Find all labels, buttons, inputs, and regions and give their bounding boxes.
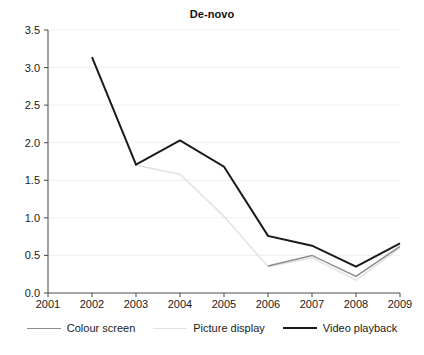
- x-tick-label: 2007: [290, 298, 334, 310]
- y-tick-label: 1.5: [6, 174, 40, 186]
- legend-item-video-playback[interactable]: Video playback: [283, 322, 397, 334]
- axis-lines: [48, 30, 400, 293]
- chart-container: De-novo 0.00.51.01.52.02.53.03.5 2001200…: [0, 0, 424, 355]
- data-series: [92, 57, 400, 280]
- x-tick-label: 2003: [114, 298, 158, 310]
- legend-item-label: Picture display: [193, 322, 265, 334]
- y-tick-label: 3.5: [6, 24, 40, 36]
- x-tick-label: 2001: [26, 298, 70, 310]
- legend-item-picture-display[interactable]: Picture display: [153, 322, 265, 334]
- series-line-colour-screen: [268, 246, 400, 276]
- x-tick-label: 2004: [158, 298, 202, 310]
- y-tick-label: 0.5: [6, 249, 40, 261]
- series-line-video-playback: [92, 57, 400, 267]
- legend-line-swatch: [27, 328, 61, 329]
- legend-line-swatch: [153, 328, 187, 329]
- chart-legend: Colour screenPicture displayVideo playba…: [0, 322, 424, 334]
- legend-item-colour-screen[interactable]: Colour screen: [27, 322, 135, 334]
- legend-item-label: Colour screen: [67, 322, 135, 334]
- gridlines: [48, 30, 400, 293]
- legend-line-swatch: [283, 327, 317, 329]
- y-tick-label: 3.0: [6, 62, 40, 74]
- x-tick-label: 2005: [202, 298, 246, 310]
- x-tick-label: 2009: [378, 298, 422, 310]
- series-line-picture-display: [136, 165, 400, 280]
- x-tick-label: 2006: [246, 298, 290, 310]
- y-tick-label: 2.5: [6, 99, 40, 111]
- y-tick-label: 2.0: [6, 137, 40, 149]
- x-tick-label: 2008: [334, 298, 378, 310]
- y-tick-label: 1.0: [6, 212, 40, 224]
- legend-item-label: Video playback: [323, 322, 397, 334]
- x-tick-label: 2002: [70, 298, 114, 310]
